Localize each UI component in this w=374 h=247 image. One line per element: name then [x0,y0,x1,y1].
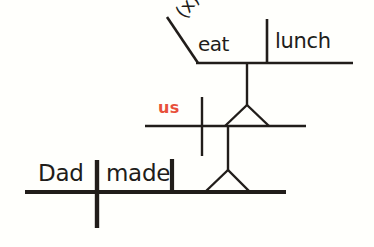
object-lunch-label: lunch [275,31,331,52]
pronoun-us-label: us [158,100,180,116]
implied-subject-slant [167,17,198,63]
middle-pedestal-right-leg [247,105,269,126]
main-pedestal-right-leg [228,170,250,192]
verb-eat-label: eat [198,34,229,54]
sentence-diagram-canvas: (x) eat lunch us Dad made [0,0,374,247]
middle-pedestal-left-leg [225,105,247,126]
verb-made-label: made [106,162,170,185]
main-pedestal-left-leg [205,170,228,192]
subject-dad-label: Dad [38,162,84,185]
